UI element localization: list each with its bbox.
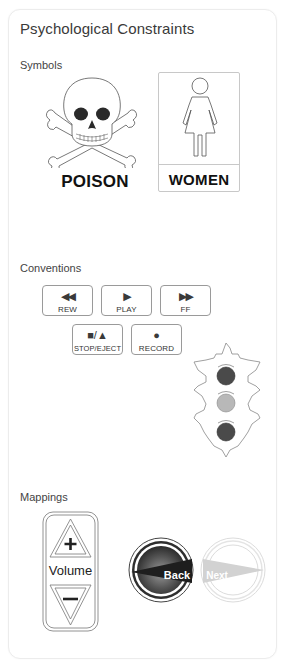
next-button[interactable]: Next (200, 537, 266, 603)
card-title: Psychological Constraints (20, 20, 194, 37)
section-label-mappings: Mappings (20, 491, 68, 503)
stop-eject-icon: ■/▲ (87, 329, 108, 341)
back-label: Back (164, 569, 191, 581)
section-label-conventions: Conventions (20, 262, 81, 274)
section-label-symbols: Symbols (20, 59, 62, 71)
volume-up-button[interactable] (49, 518, 92, 558)
next-label: Next (206, 570, 228, 581)
fast-forward-icon: ▶▶ (179, 290, 192, 302)
record-label: RECORD (139, 344, 174, 353)
rewind-label: REW (58, 305, 77, 314)
play-label: PLAY (116, 305, 136, 314)
traffic-light-icon (192, 342, 264, 458)
traffic-light-bottom (217, 423, 235, 441)
record-button[interactable]: ● RECORD (131, 324, 182, 355)
play-icon: ▶ (123, 290, 129, 302)
women-caption: WOMEN (159, 171, 239, 188)
rewind-button[interactable]: ◀◀ REW (42, 285, 93, 316)
volume-label: Volume (42, 563, 99, 578)
women-figure-icon (159, 73, 241, 163)
fast-forward-label: FF (181, 305, 191, 314)
volume-control: Volume (42, 511, 99, 632)
poison-caption: POISON (60, 172, 130, 192)
back-button[interactable]: Back (128, 537, 194, 603)
volume-down-button[interactable] (49, 584, 92, 626)
play-button[interactable]: ▶ PLAY (101, 285, 152, 316)
women-restroom-sign: WOMEN (158, 72, 240, 192)
stop-eject-label: STOP/EJECT (74, 344, 121, 353)
skull-crossbones-icon (42, 76, 142, 168)
rewind-icon: ◀◀ (61, 290, 74, 302)
sign-divider (159, 164, 239, 165)
fast-forward-button[interactable]: ▶▶ FF (160, 285, 211, 316)
traffic-light-middle (217, 394, 235, 412)
stop-eject-button[interactable]: ■/▲ STOP/EJECT (72, 324, 123, 355)
record-icon: ● (153, 329, 160, 341)
traffic-light-top (217, 367, 235, 385)
